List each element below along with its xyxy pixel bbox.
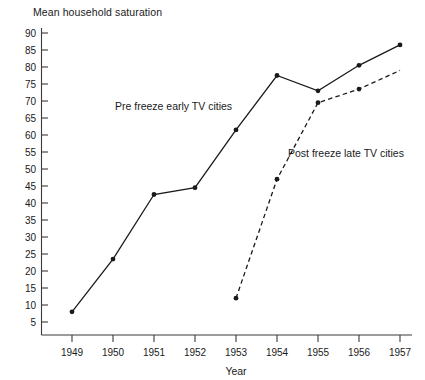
chart-container: Mean household saturation — [0, 0, 425, 380]
data-point-marker — [152, 192, 157, 197]
y-tick-label: 75 — [25, 79, 37, 90]
x-tick-label: 1950 — [102, 347, 125, 358]
data-point-marker — [316, 100, 321, 105]
x-axis-tick-labels: 1949 1950 1951 1952 1953 1954 1955 1956 … — [61, 347, 412, 358]
x-tick-label: 1953 — [225, 347, 248, 358]
y-tick-label: 60 — [25, 130, 37, 141]
y-tick-label: 45 — [25, 181, 37, 192]
data-point-marker — [234, 296, 239, 301]
y-axis-ticks — [42, 33, 49, 322]
data-point-marker — [398, 43, 403, 48]
data-point-marker — [357, 87, 362, 92]
data-point-marker — [275, 73, 280, 78]
y-tick-label: 5 — [30, 317, 36, 328]
x-tick-label: 1952 — [184, 347, 207, 358]
y-tick-label: 50 — [25, 164, 37, 175]
line-chart-svg: 90 85 80 75 70 65 60 55 50 45 40 35 30 2… — [0, 0, 425, 380]
x-axis-ticks — [72, 335, 400, 342]
data-point-marker — [316, 88, 321, 93]
data-point-marker — [193, 185, 198, 190]
annotation-post-freeze: Post freeze late TV cities — [288, 147, 404, 159]
data-point-marker — [234, 127, 239, 132]
y-tick-label: 70 — [25, 96, 37, 107]
y-tick-label: 80 — [25, 62, 37, 73]
x-tick-label: 1957 — [389, 347, 412, 358]
series-markers-pre-freeze — [70, 43, 403, 315]
data-point-marker — [111, 257, 116, 262]
x-tick-label: 1949 — [61, 347, 84, 358]
y-tick-label: 30 — [25, 232, 37, 243]
series-markers-post-freeze — [234, 87, 362, 301]
series-line-pre-freeze — [72, 45, 400, 312]
y-tick-label: 35 — [25, 215, 37, 226]
y-tick-label: 15 — [25, 283, 37, 294]
y-tick-label: 25 — [25, 249, 37, 260]
y-tick-label: 10 — [25, 300, 37, 311]
x-tick-label: 1954 — [266, 347, 289, 358]
x-tick-label: 1956 — [348, 347, 371, 358]
data-point-marker — [275, 177, 280, 182]
y-axis-tick-labels: 90 85 80 75 70 65 60 55 50 45 40 35 30 2… — [25, 28, 37, 328]
x-tick-label: 1951 — [143, 347, 166, 358]
y-tick-label: 85 — [25, 45, 37, 56]
y-tick-label: 90 — [25, 28, 37, 39]
annotation-pre-freeze: Pre freeze early TV cities — [115, 100, 232, 112]
x-axis-title: Year — [225, 365, 247, 377]
y-tick-label: 40 — [25, 198, 37, 209]
y-tick-label: 65 — [25, 113, 37, 124]
data-point-marker — [70, 309, 75, 314]
y-tick-label: 20 — [25, 266, 37, 277]
data-point-marker — [357, 63, 362, 68]
y-tick-label: 55 — [25, 147, 37, 158]
x-tick-label: 1955 — [307, 347, 330, 358]
